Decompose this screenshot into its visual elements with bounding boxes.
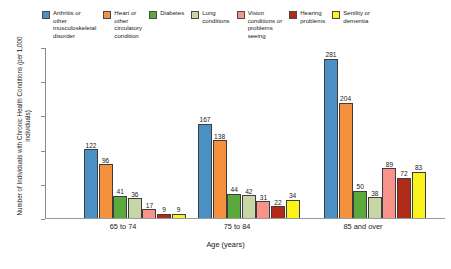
x-axis-title: Age (years) — [0, 240, 451, 249]
bar-value-label: 42 — [245, 188, 252, 196]
x-axis-tick-label: 85 and over — [343, 222, 382, 231]
x-axis-tick-label: 65 to 74 — [110, 222, 137, 231]
bar[interactable]: 122 — [84, 149, 98, 219]
y-axis-tick — [41, 185, 45, 186]
bar[interactable]: 167 — [198, 124, 212, 219]
bar[interactable]: 89 — [382, 168, 396, 219]
bar[interactable]: 41 — [113, 196, 127, 219]
bar-value-label: 122 — [85, 142, 96, 150]
chart-legend: Arthritis or other musculoskeletal disor… — [42, 9, 447, 39]
bar[interactable]: 34 — [286, 200, 300, 219]
bar-value-label: 22 — [274, 199, 281, 207]
legend-item-diabetes[interactable]: Diabetes — [149, 9, 184, 19]
bar-value-label: 9 — [162, 206, 166, 214]
bar[interactable]: 38 — [368, 197, 382, 219]
bar-value-label: 31 — [260, 194, 267, 202]
legend-swatch-vision — [237, 11, 245, 19]
legend-label-senility: Senility or dementia — [343, 9, 370, 24]
y-axis-tick — [41, 151, 45, 152]
legend-label-lung: Lung conditions — [202, 9, 229, 24]
bar[interactable]: 96 — [99, 164, 113, 219]
bar-value-label: 204 — [340, 95, 351, 103]
bar-group: 1229641361799 — [84, 48, 186, 219]
bar-value-label: 41 — [117, 188, 124, 196]
y-axis-tick — [41, 82, 45, 83]
y-axis-title: Number of Individuals with Chronic Healt… — [16, 26, 32, 226]
y-axis-tick — [41, 116, 45, 117]
bar-value-label: 44 — [231, 186, 238, 194]
legend-label-hearing: Hearing problems — [300, 9, 325, 24]
bar-value-label: 83 — [415, 164, 422, 172]
legend-label-vision: Vision conditions or problems seeing — [248, 9, 283, 39]
legend-swatch-heart — [103, 11, 111, 19]
bar[interactable]: 44 — [227, 194, 241, 219]
legend-label-arthritis: Arthritis or other musculoskeletal disor… — [53, 9, 96, 39]
bar-value-label: 9 — [177, 206, 181, 214]
bar-value-label: 72 — [400, 170, 407, 178]
legend-item-arthritis[interactable]: Arthritis or other musculoskeletal disor… — [42, 9, 96, 39]
bar[interactable]: 204 — [339, 103, 353, 219]
bar-value-label: 281 — [325, 51, 336, 59]
bar-value-label: 89 — [386, 161, 393, 169]
legend-swatch-arthritis — [42, 11, 50, 19]
legend-swatch-lung — [191, 11, 199, 19]
bar-group: 2812045038897283 — [324, 48, 426, 219]
bar[interactable]: 281 — [324, 59, 338, 219]
x-axis-line — [45, 218, 445, 219]
bar-value-label: 36 — [131, 191, 138, 199]
bar-value-label: 167 — [199, 116, 210, 124]
legend-label-diabetes: Diabetes — [160, 9, 184, 17]
legend-label-heart: Heart or other circulatory condition — [114, 9, 142, 39]
legend-swatch-hearing — [289, 11, 297, 19]
legend-item-heart[interactable]: Heart or other circulatory condition — [103, 9, 142, 39]
bar[interactable]: 42 — [242, 195, 256, 219]
legend-swatch-senility — [332, 11, 340, 19]
bar-value-label: 96 — [102, 157, 109, 165]
bar[interactable]: 72 — [397, 178, 411, 219]
bar-value-label: 138 — [214, 133, 225, 141]
plot-area: 1229641361799167138444231223428120450388… — [46, 48, 444, 219]
bar-chart: Arthritis or other musculoskeletal disor… — [0, 0, 451, 269]
bar-value-label: 50 — [357, 183, 364, 191]
bar[interactable]: 138 — [213, 140, 227, 219]
legend-swatch-diabetes — [149, 11, 157, 19]
bar[interactable]: 50 — [353, 191, 367, 220]
bar-value-label: 17 — [146, 202, 153, 210]
bar-value-label: 38 — [371, 190, 378, 198]
legend-item-hearing[interactable]: Hearing problems — [289, 9, 325, 24]
y-axis-tick — [41, 48, 45, 49]
legend-item-senility[interactable]: Senility or dementia — [332, 9, 370, 24]
legend-item-vision[interactable]: Vision conditions or problems seeing — [237, 9, 283, 39]
x-axis-tick-label: 75 to 84 — [224, 222, 251, 231]
bar-group: 1671384442312234 — [198, 48, 300, 219]
bar[interactable]: 36 — [128, 198, 142, 219]
bar[interactable]: 83 — [412, 172, 426, 219]
legend-item-lung[interactable]: Lung conditions — [191, 9, 229, 24]
y-axis-tick — [41, 219, 45, 220]
bar-value-label: 34 — [289, 192, 296, 200]
bar[interactable]: 31 — [256, 201, 270, 219]
